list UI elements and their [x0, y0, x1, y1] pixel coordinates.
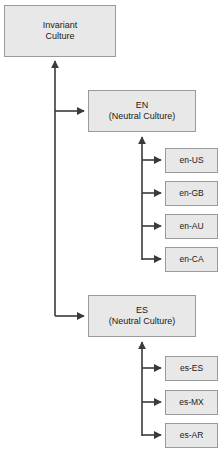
node-es-mx[interactable]: es-MX	[165, 390, 218, 415]
node-en-us-label: en-US	[179, 155, 203, 166]
node-en-gb[interactable]: en-GB	[165, 181, 218, 206]
node-en-neutral-culture[interactable]: EN (Neutral Culture)	[88, 90, 196, 132]
node-es-es[interactable]: es-ES	[165, 356, 218, 381]
node-en-label2: (Neutral Culture)	[109, 111, 176, 122]
node-es-label: ES	[136, 305, 148, 316]
node-es-es-label: es-ES	[180, 363, 203, 374]
node-es-ar[interactable]: es-AR	[165, 423, 218, 448]
node-invariant-culture-label2: Culture	[45, 31, 74, 42]
node-en-us[interactable]: en-US	[165, 148, 218, 173]
node-en-gb-label: en-GB	[179, 188, 204, 199]
node-en-ca-label: en-CA	[179, 254, 203, 265]
node-es-neutral-culture[interactable]: ES (Neutral Culture)	[88, 295, 196, 337]
node-invariant-culture-label: Invariant	[43, 20, 78, 31]
node-es-ar-label: es-AR	[180, 430, 204, 441]
node-en-au[interactable]: en-AU	[165, 214, 218, 239]
node-en-label: EN	[136, 100, 149, 111]
node-es-label2: (Neutral Culture)	[109, 316, 176, 327]
node-en-au-label: en-AU	[179, 221, 203, 232]
node-en-ca[interactable]: en-CA	[165, 247, 218, 272]
node-invariant-culture[interactable]: Invariant Culture	[4, 5, 116, 57]
node-es-mx-label: es-MX	[179, 397, 204, 408]
culture-hierarchy-diagram: Invariant Culture EN (Neutral Culture) e…	[0, 0, 224, 464]
